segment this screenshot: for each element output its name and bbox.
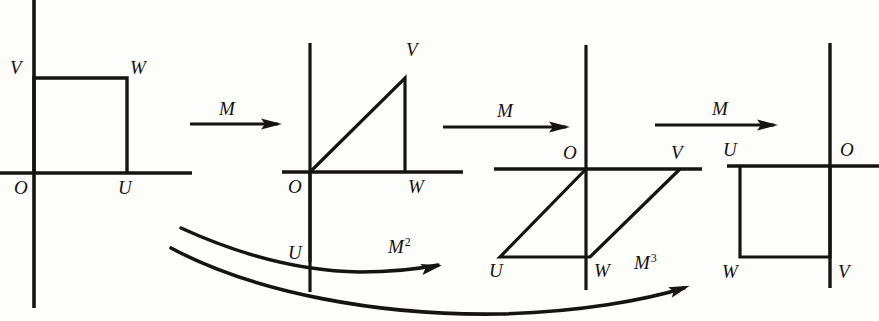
panel-2-label-U: U	[288, 243, 302, 262]
panel-3-label-O: O	[563, 143, 577, 162]
panel-3-label-V: V	[671, 143, 683, 162]
panel-4-group	[727, 43, 879, 288]
arrow-m-squared-label-exponent: 2	[405, 235, 411, 249]
arrow-m-squared-label: M2	[388, 236, 411, 256]
panel-1-label-O: O	[14, 178, 28, 197]
arrow-m-3-label: M	[712, 98, 729, 118]
panel-3-label-W: W	[594, 261, 610, 280]
figure-root: O U V W O U V W O U V W U O W V M M M M2…	[0, 0, 879, 321]
panel-4-label-V: V	[838, 262, 850, 281]
panel-4-label-W: W	[722, 262, 738, 281]
arrow-m-squared-head	[420, 264, 442, 275]
arrow-m-1-label: M	[219, 98, 236, 118]
arrow-m-1-label-base: M	[219, 98, 235, 119]
panel-1-label-V: V	[10, 58, 22, 77]
arrow-m-cubed-label-exponent: 3	[651, 251, 657, 265]
arrow-m-squared-label-base: M	[388, 236, 404, 257]
panel-4-label-O: O	[840, 140, 854, 159]
panel-1-square	[34, 78, 127, 173]
panel-1-label-U: U	[118, 178, 132, 197]
panel-2-label-W: W	[408, 177, 424, 196]
panel-4-label-U: U	[723, 140, 737, 159]
panel-2-label-V: V	[406, 40, 418, 59]
arrow-m-2-label-base: M	[497, 100, 513, 121]
panel-3-parallelogram	[500, 169, 680, 257]
panel-2-label-O: O	[288, 177, 302, 196]
straight-arrow-group	[190, 118, 778, 132]
arrow-m-3-label-base: M	[712, 98, 728, 119]
arrow-m-cubed-label: M3	[634, 252, 657, 272]
panel-2-parallelogram	[310, 78, 405, 262]
panel-2-group	[282, 43, 463, 292]
panel-4-square	[740, 166, 830, 257]
arrow-m-cubed-icon	[171, 248, 690, 314]
arrow-m-2-icon	[443, 121, 570, 132]
figure-canvas	[0, 0, 879, 321]
panel-1-label-W: W	[130, 58, 146, 77]
curved-arrow-group	[171, 228, 690, 314]
panel-1-group	[0, 0, 192, 308]
panel-3-group	[494, 45, 702, 290]
arrow-m-2-label: M	[497, 100, 514, 120]
panel-3-label-U: U	[489, 261, 503, 280]
arrow-m-3-icon	[655, 119, 778, 130]
arrow-m-cubed-label-base: M	[634, 252, 650, 273]
arrow-m-1-icon	[190, 118, 282, 129]
arrow-m-cubed-shaft	[171, 248, 684, 314]
